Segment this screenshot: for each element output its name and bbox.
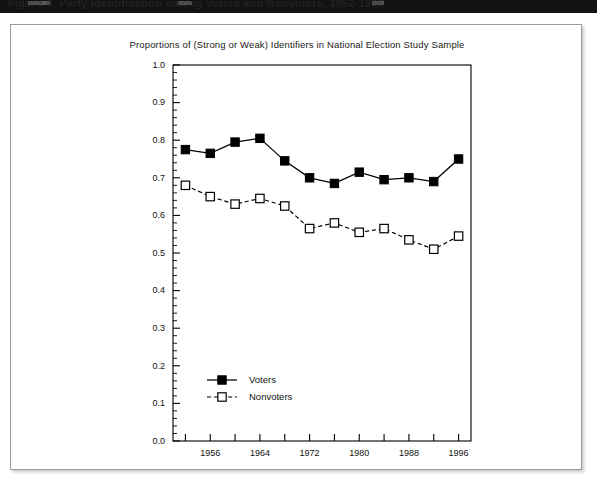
caption-bar-text: Figure 4. Party Identification among Vot… [8, 0, 384, 9]
y-tick-label: 0.4 [152, 285, 165, 295]
series-layer [181, 134, 463, 253]
legend-marker-nonvoters [218, 393, 226, 401]
chart-canvas: 0.00.10.20.30.40.50.60.70.80.91.0 195619… [11, 25, 583, 471]
series-line-nonvoters [185, 185, 458, 249]
data-point-nonvoters-1964 [256, 194, 264, 202]
data-point-voters-1964 [256, 134, 264, 142]
data-point-voters-1984 [380, 175, 388, 183]
data-point-nonvoters-1976 [330, 219, 338, 227]
data-point-nonvoters-1960 [231, 200, 239, 208]
x-tick-label: 1996 [449, 448, 469, 458]
x-tick-label: 1988 [399, 448, 419, 458]
data-point-voters-1952 [181, 145, 189, 153]
chart-legend: VotersNonvoters [207, 374, 293, 402]
data-point-voters-1980 [355, 168, 363, 176]
y-tick-label: 1.0 [152, 60, 165, 70]
y-tick-label: 0.0 [152, 436, 165, 446]
y-axis: 0.00.10.20.30.40.50.60.70.80.91.0 [152, 60, 180, 446]
y-tick-label: 0.1 [152, 398, 165, 408]
data-point-nonvoters-1952 [181, 181, 189, 189]
data-point-voters-1992 [430, 177, 438, 185]
data-point-voters-1972 [305, 174, 313, 182]
data-point-nonvoters-1984 [380, 224, 388, 232]
screenshot-root: Figure 4. Party Identification among Vot… [0, 0, 597, 488]
legend-label-nonvoters: Nonvoters [249, 391, 293, 402]
data-point-voters-1968 [281, 157, 289, 165]
y-tick-label: 0.8 [152, 135, 165, 145]
x-tick-label: 1980 [349, 448, 369, 458]
data-point-voters-1988 [405, 174, 413, 182]
legend-label-voters: Voters [249, 374, 276, 385]
x-axis: 195619641972198019881996 [185, 434, 468, 458]
x-tick-label: 1956 [200, 448, 220, 458]
data-point-nonvoters-1988 [405, 236, 413, 244]
line-chart: 0.00.10.20.30.40.50.60.70.80.91.0 195619… [11, 25, 583, 471]
y-tick-label: 0.2 [152, 361, 165, 371]
data-point-nonvoters-1956 [206, 192, 214, 200]
y-tick-label: 0.3 [152, 323, 165, 333]
series-line-voters [185, 138, 458, 183]
y-tick-label: 0.6 [152, 210, 165, 220]
legend-marker-voters [218, 376, 226, 384]
y-tick-label: 0.7 [152, 173, 165, 183]
data-point-voters-1976 [330, 179, 338, 187]
data-point-nonvoters-1972 [305, 224, 313, 232]
data-point-voters-1996 [454, 155, 462, 163]
data-point-nonvoters-1992 [430, 245, 438, 253]
data-point-nonvoters-1996 [454, 232, 462, 240]
document-caption-bar: Figure 4. Party Identification among Vot… [0, 0, 597, 13]
figure-card: Proportions of (Strong or Weak) Identifi… [10, 24, 582, 470]
y-tick-label: 0.5 [152, 248, 165, 258]
data-point-voters-1956 [206, 149, 214, 157]
data-point-nonvoters-1980 [355, 228, 363, 236]
x-tick-label: 1964 [250, 448, 270, 458]
y-tick-label: 0.9 [152, 97, 165, 107]
data-point-voters-1960 [231, 138, 239, 146]
x-tick-label: 1972 [300, 448, 320, 458]
data-point-nonvoters-1968 [281, 202, 289, 210]
